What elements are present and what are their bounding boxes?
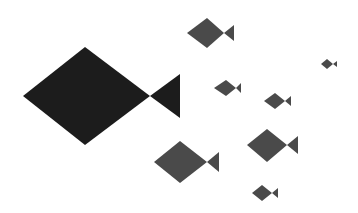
fish-body-shape: [23, 47, 150, 145]
fish-e-fish-icon: [154, 141, 219, 183]
leader-fish-icon: [23, 47, 180, 145]
fish-body-shape: [247, 129, 287, 162]
fish-tail-shape: [224, 25, 234, 41]
fish-tail-shape: [333, 61, 337, 67]
fish-g-fish-icon: [252, 185, 278, 201]
fish-f-fish-icon: [247, 129, 298, 162]
fish-d-fish-icon: [321, 59, 337, 69]
fish-tail-shape: [207, 152, 219, 172]
fish-body-shape: [252, 185, 272, 201]
fish-body-shape: [264, 93, 285, 109]
fish-tail-shape: [285, 96, 291, 106]
fish-b-fish-icon: [214, 80, 241, 96]
fish-tail-shape: [287, 136, 298, 154]
fish-body-shape: [214, 80, 236, 96]
fish-tail-shape: [272, 188, 278, 198]
fish-tail-shape: [236, 83, 241, 93]
fish-school-illustration: [0, 0, 358, 213]
fish-a-fish-icon: [187, 18, 234, 48]
fish-tail-shape: [150, 74, 180, 118]
fish-c-fish-icon: [264, 93, 291, 109]
fish-body-shape: [187, 18, 224, 48]
fish-body-shape: [154, 141, 207, 183]
fish-body-shape: [321, 59, 333, 69]
